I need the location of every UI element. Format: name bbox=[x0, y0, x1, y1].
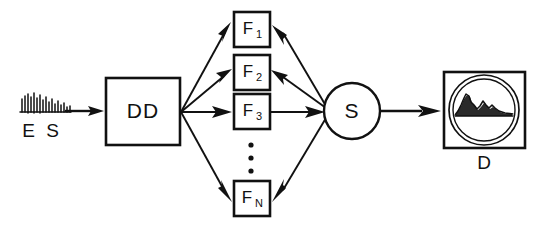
links-dd-to-filters bbox=[181, 22, 232, 202]
summer-label: S bbox=[344, 99, 359, 122]
diagram-canvas: E S DD bbox=[0, 0, 549, 227]
source-label: E S bbox=[22, 120, 62, 141]
filter-node-1: F 1 bbox=[234, 12, 270, 47]
filter-label-1: F bbox=[243, 19, 253, 38]
dd-node: DD bbox=[106, 78, 180, 145]
damped-oscillation-waveform-icon bbox=[22, 93, 70, 113]
filter-label-3: F bbox=[243, 101, 253, 120]
filter-subscript-1: 1 bbox=[256, 28, 262, 40]
filter-subscript-3: 3 bbox=[256, 110, 262, 122]
filter-node-3: F 3 bbox=[234, 94, 270, 129]
display-node: D bbox=[444, 72, 525, 173]
filter-bank-group: F 1 F 2 F 3 F N bbox=[234, 12, 270, 216]
vertical-ellipsis-icon bbox=[248, 142, 253, 173]
filter-subscript-2: 2 bbox=[256, 71, 262, 83]
link-summer-to-display bbox=[380, 105, 441, 117]
dd-label: DD bbox=[127, 99, 160, 122]
display-label: D bbox=[477, 152, 491, 173]
filter-label-2: F bbox=[243, 62, 253, 81]
summer-node: S bbox=[324, 83, 380, 139]
excitation-source-group: E S bbox=[20, 93, 71, 141]
block-diagram-figure: E S DD bbox=[0, 0, 549, 227]
filter-label-n: F bbox=[242, 188, 252, 207]
links-filters-to-summer bbox=[271, 25, 326, 202]
link-source-to-dd bbox=[65, 106, 104, 116]
filter-node-2: F 2 bbox=[234, 55, 270, 90]
filter-node-n: F N bbox=[234, 181, 270, 216]
filter-subscript-n: N bbox=[255, 197, 263, 209]
